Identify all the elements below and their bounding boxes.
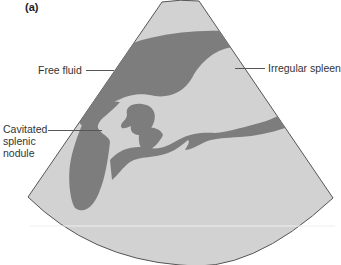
ultrasound-diagram: (a) Free fluid Irregular spleen Cavitate… — [0, 0, 341, 265]
label-cavitated-line2: splenic — [3, 135, 36, 147]
ultrasound-sector-image — [0, 0, 341, 265]
label-irregular-spleen: Irregular spleen — [268, 62, 341, 74]
label-cavitated-line3: nodule — [3, 147, 35, 159]
panel-label: (a) — [25, 1, 38, 13]
leader-irregular-spleen — [235, 68, 265, 69]
label-free-fluid: Free fluid — [38, 64, 82, 76]
leader-free-fluid — [86, 70, 114, 71]
leader-cavitated-nodule — [48, 130, 102, 131]
label-cavitated-line1: Cavitated — [3, 123, 47, 135]
